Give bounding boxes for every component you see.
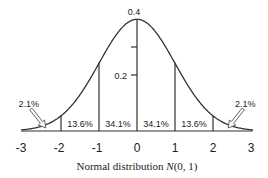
x-tick-label: 3	[248, 141, 255, 155]
region-percent-label: 13.6%	[67, 119, 93, 129]
x-tick-label: 1	[172, 141, 179, 155]
annotation-arrow	[30, 108, 46, 128]
y-tick-label: 0.2	[114, 71, 127, 81]
y-tick-label: 0.4	[128, 7, 141, 17]
x-tick-label: 2	[210, 141, 217, 155]
x-tick-label: 0	[134, 141, 141, 155]
x-axis-label: Normal distribution N(0, 1)	[77, 160, 198, 173]
annotation-arrow	[228, 108, 244, 128]
normal-distribution-chart: 0.20.4 34.1%34.1%13.6%13.6% 2.1%2.1% -3-…	[0, 0, 268, 178]
x-tick-label: -3	[16, 141, 27, 155]
region-percent-label: 34.1%	[105, 119, 131, 129]
tail-percent-label: 2.1%	[235, 99, 256, 109]
region-percent-label: 34.1%	[143, 119, 169, 129]
x-axis-label-prefix: Normal distribution	[77, 160, 167, 172]
x-tick-label: -2	[54, 141, 65, 155]
tail-percent-label: 2.1%	[19, 99, 40, 109]
x-tick-label: -1	[92, 141, 103, 155]
x-axis-label-suffix: (0, 1)	[174, 160, 198, 173]
region-percent-label: 13.6%	[181, 119, 207, 129]
